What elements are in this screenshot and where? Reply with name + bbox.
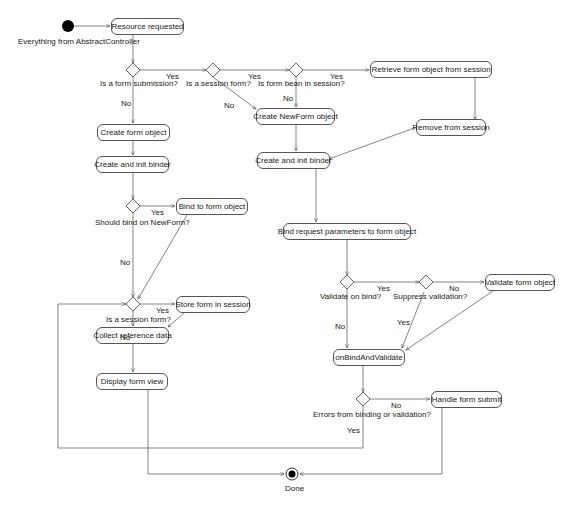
decision-label-is-session-form-top: Is a session form? [186, 79, 251, 88]
decision-label-should-bind-on-newform: Should bind on NewForm? [95, 218, 190, 227]
decision-errors-icon [356, 392, 370, 406]
action-create-init-binder-right: Create and init binder [257, 152, 330, 169]
guard-yes-validate-on-bind: Yes [377, 284, 390, 293]
guard-no-session-form-top: No [224, 101, 234, 110]
action-handle-form-submit: Handle form submit [431, 391, 502, 408]
action-create-newform-object: Create NewForm object [256, 108, 335, 125]
guard-no-errors: No [391, 401, 401, 410]
action-resource-requested: Resource requested [111, 18, 184, 35]
action-display-form-view: Display form view [96, 373, 168, 390]
activity-diagram: Resource requested Retrieve form object … [0, 0, 572, 506]
action-bind-to-form-object: Bind to form object [176, 198, 248, 215]
action-validate-form-object: Validate form object [485, 274, 555, 291]
decision-label-suppress-validation: Suppress validation? [393, 292, 467, 301]
guard-yes-suppress: Yes [397, 318, 410, 327]
guard-no-validate-on-bind: No [335, 322, 345, 331]
guard-yes-form-bean: Yes [330, 72, 343, 81]
guard-yes-session-form-top: Yes [248, 72, 261, 81]
guard-no-session-form-bottom: No [120, 333, 130, 342]
guard-no-should-bind: No [120, 258, 130, 267]
guard-no-form-submission: No [121, 99, 131, 108]
action-create-init-binder-left: Create and init binder [96, 156, 169, 173]
action-create-form-object: Create form object [97, 124, 170, 141]
action-remove-from-session: Remove from session [416, 119, 486, 136]
decision-validate-on-bind-icon [340, 275, 354, 289]
guard-no-suppress: No [449, 284, 459, 293]
guard-yes-session-form-bottom: Yes [156, 306, 169, 315]
guard-yes-should-bind: Yes [151, 208, 164, 217]
decision-label-errors-from-binding: Errors from binding or validation? [313, 410, 431, 419]
decision-is-session-form-bottom-icon [126, 297, 140, 311]
decision-is-session-form-top-icon [206, 63, 220, 77]
decision-label-is-session-form-bottom: Is a session form? [106, 315, 171, 324]
action-retrieve-form-object: Retrieve form object from session [370, 61, 492, 78]
decision-suppress-validation-icon [419, 275, 433, 289]
decision-is-form-submission-icon [126, 63, 140, 77]
guard-yes-form-submission: Yes [166, 72, 179, 81]
start-label: Everything from AbstractController [18, 37, 140, 46]
action-store-form-in-session: Store form in session [176, 296, 250, 313]
decision-form-bean-in-session-icon [289, 63, 303, 77]
action-bind-request-parameters: Bind request parameters to form object [283, 223, 411, 240]
guard-yes-errors: Yes [347, 426, 360, 435]
decision-label-validate-on-bind: Validate on bind? [320, 292, 381, 301]
end-label: Done [285, 484, 304, 493]
start-node-icon [62, 20, 74, 32]
decision-should-bind-icon [126, 199, 140, 213]
action-on-bind-and-validate: onBindAndValidate [333, 349, 405, 366]
action-collect-reference-data: Collect reference data [96, 327, 169, 344]
guard-no-form-bean: No [283, 94, 293, 103]
